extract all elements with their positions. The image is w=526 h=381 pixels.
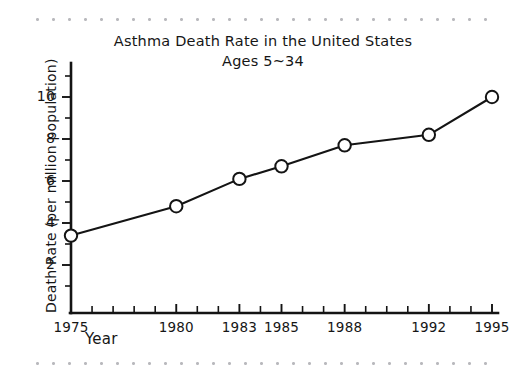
x-tick-label: 1988 xyxy=(323,319,367,335)
data-point-marker[interactable] xyxy=(423,129,435,141)
data-point-marker[interactable] xyxy=(65,229,77,241)
y-tick-label: 8 xyxy=(29,130,55,146)
x-tick-label: 1975 xyxy=(49,319,93,335)
y-tick-label: 6 xyxy=(29,172,55,188)
x-tick-label: 1995 xyxy=(470,319,514,335)
x-tick-label: 1992 xyxy=(407,319,451,335)
y-tick-label: 4 xyxy=(29,214,55,230)
chart-figure: Asthma Death Rate in the United States A… xyxy=(0,0,526,381)
x-tick-label: 1980 xyxy=(154,319,198,335)
data-point-marker[interactable] xyxy=(233,173,245,185)
y-axis-ticks xyxy=(62,76,71,286)
axes xyxy=(70,63,498,313)
data-point-marker[interactable] xyxy=(486,91,498,103)
data-point-marker[interactable] xyxy=(170,200,182,212)
x-axis-ticks xyxy=(71,304,492,313)
data-point-marker[interactable] xyxy=(275,160,287,172)
data-point-marker[interactable] xyxy=(338,139,350,151)
x-tick-label: 1985 xyxy=(260,319,304,335)
y-tick-label: 10 xyxy=(29,88,55,104)
x-tick-label: 1983 xyxy=(217,319,261,335)
y-tick-label: 2 xyxy=(29,256,55,272)
